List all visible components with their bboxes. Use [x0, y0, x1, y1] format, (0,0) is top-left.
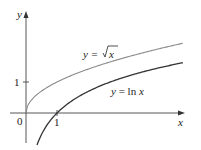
sqrt-annotation-prefix: y = [82, 48, 98, 60]
x-axis-arrow-icon [178, 111, 185, 116]
ln-annotation: y = ln x [110, 85, 144, 97]
y-axis-label: y [16, 8, 22, 20]
sqrt-annotation-arg: x [108, 48, 114, 60]
sqrt-curve [26, 43, 183, 113]
function-plot: y x 0 1 1 y = x y = ln x [0, 0, 201, 150]
y-tick-label-1: 1 [14, 76, 20, 88]
svg-text:y = ln x: y = ln x [110, 85, 144, 97]
x-tick-label-1: 1 [54, 116, 60, 128]
ln-curve [37, 63, 183, 145]
sqrt-annotation: y = x [82, 46, 118, 60]
origin-label: 0 [17, 115, 23, 127]
x-axis-label: x [177, 116, 183, 128]
ln-annotation-var: x [138, 85, 144, 97]
svg-text:y =: y = [82, 48, 98, 60]
y-axis-arrow-icon [24, 11, 29, 18]
